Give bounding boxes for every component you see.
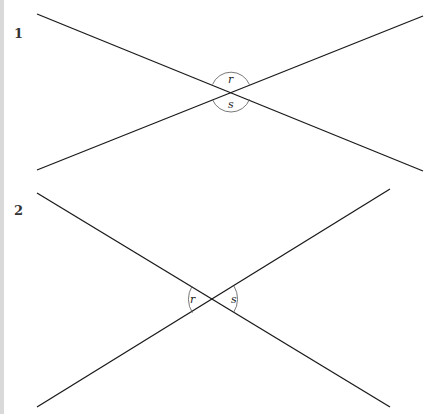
figure-1-label-s: s <box>228 98 234 111</box>
figure-1-label-r: r <box>228 73 234 86</box>
figure-2: r s <box>37 189 390 407</box>
figure-2-label-s: s <box>231 293 237 306</box>
diagram-canvas: r s r s <box>0 0 433 414</box>
figure-1: r s <box>37 14 423 171</box>
figure-2-label-r: r <box>190 293 196 306</box>
